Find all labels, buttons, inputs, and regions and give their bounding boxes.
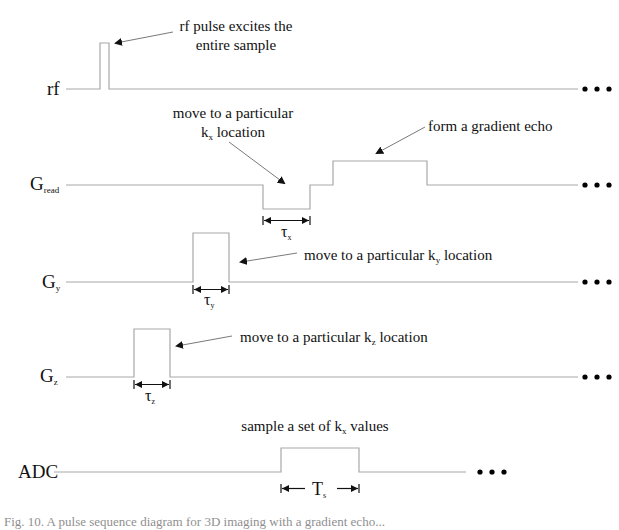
figure-caption: Fig. 10. A pulse sequence diagram for 3D…	[4, 514, 385, 530]
annotation-adc: sample a set of kx values	[241, 418, 389, 436]
ellipsis-icon	[582, 374, 611, 379]
svg-text:move to a particular: move to a particular	[173, 105, 293, 121]
svg-text:τy: τy	[204, 291, 214, 310]
adc-row: ADC	[18, 448, 507, 482]
gy-row: Gy	[42, 233, 612, 293]
svg-text:τx: τx	[281, 223, 291, 242]
svg-text:τz: τz	[145, 387, 155, 406]
annotation-ky: move to a particular ky location	[241, 247, 493, 265]
gy-label: Gy	[42, 271, 61, 293]
gz-label: Gz	[40, 365, 58, 387]
svg-text:Ts: Ts	[312, 479, 326, 500]
adc-label: ADC	[18, 461, 58, 482]
svg-text:move to a particular kz locati: move to a particular kz location	[240, 329, 428, 347]
rf-label: rf	[47, 78, 60, 99]
adc-waveform	[54, 448, 466, 472]
svg-text:sample a set of kx values: sample a set of kx values	[241, 418, 389, 436]
gread-label: Gread	[30, 173, 60, 195]
svg-text:entire sample: entire sample	[196, 37, 277, 53]
ellipsis-icon	[582, 86, 611, 91]
gread-waveform	[66, 161, 578, 209]
rf-waveform	[66, 43, 578, 89]
svg-text:kx location: kx location	[201, 124, 266, 142]
ellipsis-icon	[582, 279, 611, 284]
svg-text:move to a particular ky locati: move to a particular ky location	[304, 247, 493, 265]
ellipsis-icon	[582, 182, 611, 187]
svg-text:rf pulse excites the: rf pulse excites the	[180, 18, 293, 34]
annotation-kz: move to a particular kz location	[177, 329, 428, 347]
annotation-echo: form a gradient echo	[377, 118, 553, 153]
dimension-tau-x: τx	[263, 216, 310, 242]
gread-row: Gread	[30, 161, 612, 209]
dimension-tau-y: τy	[193, 285, 229, 310]
annotation-kx: move to a particular kx location	[173, 105, 293, 183]
annotation-rf: rf pulse excites the entire sample	[116, 18, 293, 53]
dimension-tau-z: τz	[134, 380, 170, 406]
rf-row: rf	[47, 43, 612, 99]
dimension-t-s: Ts	[281, 479, 359, 500]
ellipsis-icon	[477, 469, 506, 474]
svg-text:form a gradient echo: form a gradient echo	[428, 118, 553, 134]
